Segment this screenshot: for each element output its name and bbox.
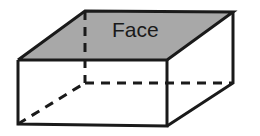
- figure-container: Face: [0, 0, 260, 136]
- prism-front-face: [18, 60, 167, 126]
- face-label: Face: [112, 18, 159, 41]
- rectangular-prism-illustration: Face: [0, 0, 260, 136]
